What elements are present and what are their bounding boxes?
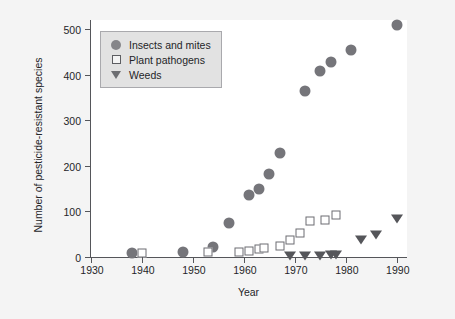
data-point bbox=[331, 211, 340, 220]
x-tick: 1990 bbox=[397, 257, 398, 263]
data-point bbox=[177, 247, 188, 258]
data-point bbox=[295, 229, 304, 238]
data-point bbox=[208, 241, 219, 252]
triangle-marker-icon bbox=[108, 71, 124, 79]
x-tick: 1980 bbox=[346, 257, 347, 263]
legend-item-weeds: Weeds bbox=[108, 67, 211, 82]
data-point bbox=[299, 252, 311, 261]
x-tick-label: 1930 bbox=[80, 264, 103, 276]
x-tick: 1930 bbox=[91, 257, 92, 263]
data-point bbox=[264, 169, 275, 180]
data-point bbox=[275, 242, 284, 251]
y-tick: 500 bbox=[85, 29, 91, 30]
x-tick: 1950 bbox=[193, 257, 194, 263]
data-point bbox=[300, 86, 311, 97]
data-point bbox=[126, 248, 137, 259]
y-tick: 200 bbox=[85, 166, 91, 167]
y-axis-label: Number of pesticide-resistant species bbox=[32, 50, 44, 240]
chart-legend: Insects and mites Plant pathogens Weeds bbox=[100, 31, 222, 88]
circle-marker-icon bbox=[108, 40, 124, 50]
y-tick-label: 400 bbox=[63, 70, 81, 82]
data-point bbox=[223, 217, 234, 228]
y-tick: 100 bbox=[85, 211, 91, 212]
data-point bbox=[234, 247, 243, 256]
square-marker-icon bbox=[108, 55, 124, 64]
x-axis-label: Year bbox=[90, 286, 407, 298]
x-tick-label: 1990 bbox=[386, 264, 409, 276]
x-tick-label: 1980 bbox=[335, 264, 358, 276]
data-point bbox=[325, 56, 336, 67]
y-tick: 400 bbox=[85, 75, 91, 76]
data-point bbox=[306, 217, 315, 226]
y-tick-label: 200 bbox=[63, 161, 81, 173]
data-point bbox=[315, 66, 326, 77]
data-point bbox=[260, 243, 269, 252]
data-point bbox=[314, 252, 326, 261]
data-point bbox=[391, 20, 402, 31]
legend-item-insects-and-mites: Insects and mites bbox=[108, 37, 211, 52]
data-point bbox=[245, 246, 254, 255]
data-point bbox=[204, 248, 213, 257]
data-point bbox=[345, 44, 356, 55]
legend-label: Insects and mites bbox=[129, 39, 211, 51]
x-tick: 1960 bbox=[244, 257, 245, 263]
data-point bbox=[285, 235, 294, 244]
x-tick-label: 1960 bbox=[233, 264, 256, 276]
data-point bbox=[321, 215, 330, 224]
x-tick: 1970 bbox=[295, 257, 296, 263]
legend-label: Weeds bbox=[129, 69, 162, 81]
x-tick-label: 1950 bbox=[182, 264, 205, 276]
y-tick-label: 300 bbox=[63, 115, 81, 127]
data-point bbox=[244, 190, 255, 201]
chart-figure: 0100200300400500 19301940195019601970198… bbox=[0, 0, 455, 319]
y-tick-label: 100 bbox=[63, 206, 81, 218]
y-tick-label: 0 bbox=[75, 252, 81, 264]
data-point bbox=[355, 235, 367, 244]
legend-item-plant-pathogens: Plant pathogens bbox=[108, 52, 211, 67]
data-point bbox=[255, 244, 264, 253]
data-point bbox=[370, 231, 382, 240]
x-tick-label: 1940 bbox=[131, 264, 154, 276]
x-tick-label: 1970 bbox=[284, 264, 307, 276]
data-point bbox=[325, 251, 337, 260]
legend-label: Plant pathogens bbox=[129, 54, 205, 66]
x-tick: 1940 bbox=[142, 257, 143, 263]
y-tick: 300 bbox=[85, 120, 91, 121]
data-point bbox=[391, 214, 403, 223]
data-point bbox=[274, 148, 285, 159]
y-tick-label: 500 bbox=[63, 24, 81, 36]
data-point bbox=[330, 251, 342, 260]
data-point bbox=[254, 183, 265, 194]
